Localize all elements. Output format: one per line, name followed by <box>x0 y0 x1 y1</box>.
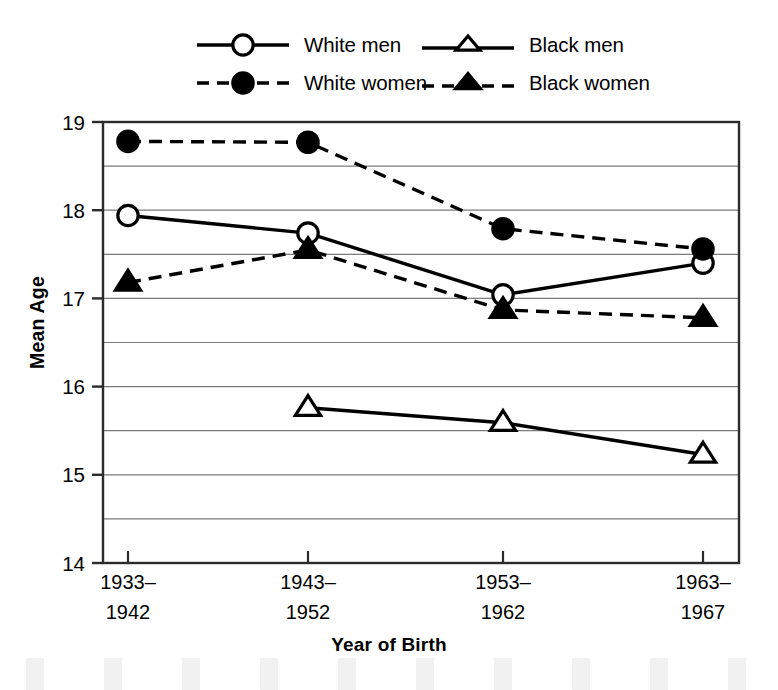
y-tick-label: 17 <box>62 287 85 310</box>
y-axis-title: Mean Age <box>26 263 49 383</box>
series-line-white-women <box>128 141 703 249</box>
plot-area: 141516171819 1933–19421943–19521953–1962… <box>0 0 778 690</box>
x-tick-label: 1943– <box>280 571 336 593</box>
gridlines <box>103 166 739 519</box>
marker-white-men <box>118 205 138 225</box>
marker-white-women <box>493 219 513 239</box>
marker-white-women <box>118 131 138 151</box>
plot-canvas: 141516171819 1933–19421943–19521953–1962… <box>0 0 778 690</box>
x-tick-label: 1953– <box>475 571 531 593</box>
data-series-layer <box>115 131 715 462</box>
y-tick-label: 14 <box>62 552 85 575</box>
scan-artifact <box>0 658 778 690</box>
y-axis-tick-labels: 141516171819 <box>62 111 85 575</box>
x-axis-tick-labels: 1933–19421943–19521953–19621963–1967 <box>100 571 731 623</box>
y-tick-label: 15 <box>62 463 85 486</box>
y-tick-label: 16 <box>62 375 85 398</box>
marker-black-women <box>690 306 715 326</box>
y-axis-ticks <box>92 122 103 563</box>
marker-black-men <box>295 396 320 416</box>
x-tick-label: 1967 <box>681 601 726 623</box>
x-tick-label: 1962 <box>481 601 526 623</box>
chart-figure: White men White women Black men <box>0 0 778 690</box>
x-tick-label: 1963– <box>675 571 731 593</box>
x-axis-ticks <box>128 551 703 563</box>
x-axis-title: Year of Birth <box>0 634 778 656</box>
marker-white-women <box>298 132 318 152</box>
series-line-black-women <box>128 250 703 318</box>
x-tick-label: 1942 <box>106 601 151 623</box>
x-tick-label: 1933– <box>100 571 156 593</box>
y-tick-label: 18 <box>62 199 85 222</box>
y-tick-label: 19 <box>62 111 85 134</box>
x-tick-label: 1952 <box>286 601 331 623</box>
marker-white-women <box>693 239 713 259</box>
